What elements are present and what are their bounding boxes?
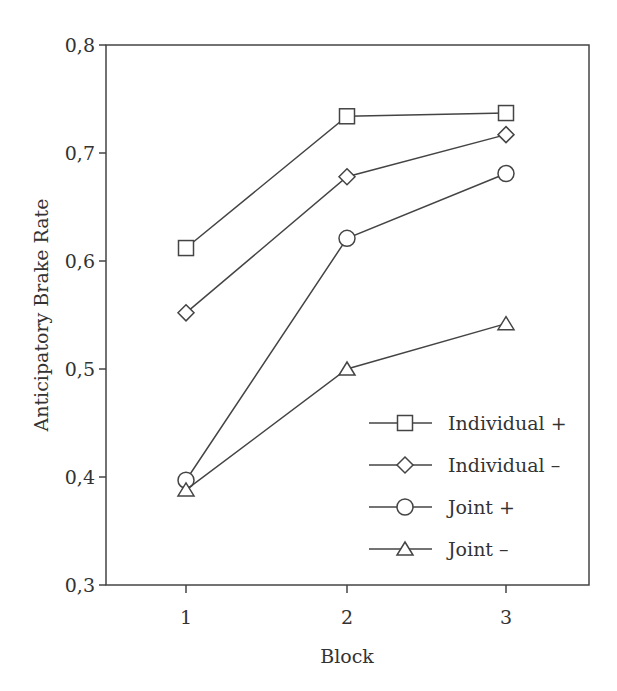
square-marker — [179, 241, 194, 256]
diamond-marker — [498, 127, 514, 143]
x-axis-label: Block — [320, 645, 374, 667]
y-tick-label: 0,6 — [65, 250, 95, 272]
y-axis: 0,30,40,50,60,70,8 — [65, 34, 106, 596]
legend-label: Joint – — [446, 538, 509, 560]
y-tick-label: 0,5 — [65, 358, 95, 380]
square-marker — [398, 416, 413, 431]
legend: Individual +Individual –Joint +Joint – — [369, 412, 567, 560]
legend-item: Individual – — [369, 454, 560, 476]
triangle-marker — [339, 362, 355, 375]
diamond-marker — [397, 457, 413, 473]
x-tick-label: 1 — [180, 606, 192, 628]
legend-label: Joint + — [446, 496, 515, 518]
circle-marker — [339, 230, 355, 246]
y-tick-label: 0,3 — [65, 574, 95, 596]
legend-item: Joint + — [369, 496, 515, 518]
series-line — [186, 135, 506, 313]
y-tick-label: 0,4 — [65, 466, 95, 488]
circle-marker — [397, 499, 413, 515]
line-chart: 0,30,40,50,60,70,8 123 Individual +Indiv… — [0, 0, 617, 691]
x-tick-label: 2 — [341, 606, 353, 628]
series-line — [186, 174, 506, 481]
y-tick-label: 0,8 — [65, 34, 95, 56]
series-diamond — [178, 127, 514, 321]
y-axis-label: Anticipatory Brake Rate — [30, 199, 52, 433]
legend-item: Joint – — [369, 538, 509, 560]
square-marker — [499, 106, 514, 121]
x-axis: 123 — [180, 585, 512, 628]
square-marker — [340, 109, 355, 124]
plot-frame — [106, 45, 589, 585]
legend-label: Individual – — [448, 454, 560, 476]
y-tick-label: 0,7 — [65, 142, 95, 164]
legend-item: Individual + — [369, 412, 567, 434]
legend-label: Individual + — [448, 412, 567, 434]
x-tick-label: 3 — [500, 606, 512, 628]
series-group — [178, 106, 514, 496]
triangle-marker — [498, 317, 514, 330]
circle-marker — [498, 166, 514, 182]
plot-border — [106, 45, 589, 585]
